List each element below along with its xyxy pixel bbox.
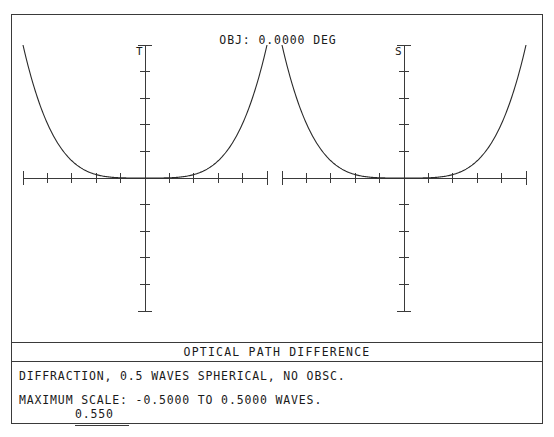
plot-window-frame: OBJ: 0.0000 DEG T S OPTICAL PATH DIFFERE…	[11, 14, 543, 424]
plot-area: OBJ: 0.0000 DEG T S	[12, 15, 544, 341]
title-rule-top	[12, 342, 542, 343]
opd-panels	[23, 45, 526, 311]
plot-title: OPTICAL PATH DIFFERENCE	[12, 344, 542, 361]
system-description: DIFFRACTION, 0.5 WAVES SPHERICAL, NO OBS…	[19, 369, 346, 383]
opd-fan-plot	[12, 15, 544, 341]
maximum-scale-text: MAXIMUM SCALE: -0.5000 TO 0.5000 WAVES.	[19, 393, 322, 407]
footer-block: DIFFRACTION, 0.5 WAVES SPHERICAL, NO OBS…	[12, 362, 542, 424]
opd-panel-t	[23, 45, 267, 311]
opd-panel-s	[282, 45, 526, 311]
wavelength-value: 0.550	[75, 407, 114, 421]
screenshot-root: OBJ: 0.0000 DEG T S OPTICAL PATH DIFFERE…	[0, 0, 554, 437]
wavelength-underline	[75, 425, 129, 426]
